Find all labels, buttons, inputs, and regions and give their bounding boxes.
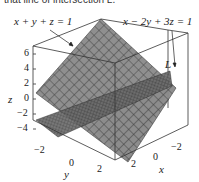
- line-L-label: L: [165, 58, 171, 70]
- z-tick-0: 0: [24, 92, 29, 103]
- y-axis-label: y: [64, 168, 69, 180]
- y-tick-neg2: −2: [34, 144, 45, 155]
- x-tick-2: 2: [131, 158, 136, 169]
- z-tick-neg2: −2: [17, 107, 28, 118]
- z-tick-4: 4: [24, 62, 29, 73]
- z-axis-ticks: [33, 54, 36, 129]
- y-tick-2: 2: [97, 163, 102, 174]
- z-tick-2: 2: [24, 77, 29, 88]
- z-axis-label: z: [8, 93, 12, 105]
- plane-1-label: x + y + z = 1: [14, 15, 72, 27]
- plane-2-label: x − 2y + 3z = 1: [123, 15, 192, 27]
- z-tick-neg4: −4: [17, 122, 28, 133]
- x-tick-neg2: −2: [171, 141, 182, 152]
- plot-3d: [0, 0, 199, 182]
- z-tick-6: 6: [24, 47, 29, 58]
- x-axis-label: x: [159, 163, 164, 175]
- y-tick-0: 0: [69, 157, 74, 168]
- x-tick-0: 0: [153, 151, 158, 162]
